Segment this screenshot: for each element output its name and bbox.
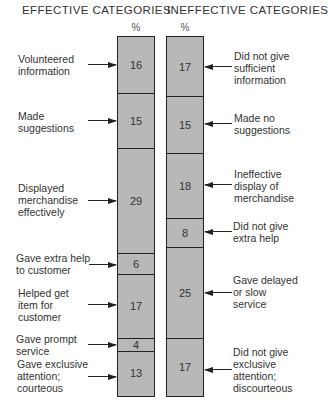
arrow-left-icon [205, 292, 232, 293]
bar-segment: 15 [167, 96, 203, 154]
right-label: Made nosuggestions [234, 112, 290, 136]
bar-segment: 6 [118, 253, 154, 275]
percent-unit-left: % [117, 22, 155, 33]
arrow-right-icon [89, 264, 116, 265]
arrow-right-icon [88, 344, 116, 345]
arrow-left-icon [205, 123, 232, 124]
left-label: Gave extra helpto customer [16, 252, 90, 276]
arrow-left-icon [205, 184, 232, 185]
bar-segment: 29 [118, 148, 154, 254]
bar-segment: 8 [167, 218, 203, 248]
bar-segment: 4 [118, 338, 154, 352]
right-label: Did not givesufficientinformation [234, 50, 289, 86]
left-label: Volunteeredinformation [18, 53, 74, 77]
left-label: Madesuggestions [18, 110, 74, 134]
arrow-right-icon [88, 200, 116, 201]
right-label: Did not giveexclusiveattention;discourte… [233, 346, 293, 394]
bar-segment: 17 [118, 274, 154, 339]
arrow-right-icon [88, 64, 116, 65]
arrow-left-icon [205, 66, 232, 67]
arrow-left-icon [205, 369, 232, 370]
left-label: Gave promptservice [16, 333, 77, 357]
arrow-left-icon [205, 231, 232, 232]
left-label: Displayedmerchandiseeffectively [18, 182, 78, 218]
percent-unit-right: % [166, 22, 204, 33]
bar-segment: 17 [167, 338, 203, 395]
left-label: Helped getitem forcustomer [18, 287, 69, 323]
bar-segment: 25 [167, 247, 203, 339]
right-label: Ineffectivedisplay ofmerchandise [234, 168, 294, 204]
arrow-right-icon [88, 304, 116, 305]
bar-segment: 16 [118, 37, 154, 94]
ineffective-bar: 17 15 18 8 25 17 [166, 36, 204, 397]
heading-effective: EFFECTIVE CATEGORIES [22, 4, 171, 16]
bar-segment: 13 [118, 351, 154, 395]
arrow-right-icon [88, 120, 116, 121]
heading-ineffective: INEFFECTIVE CATEGORIES [167, 4, 328, 16]
right-label: Did not giveextra help [233, 220, 288, 244]
right-label: Gave delayedor slowservice [233, 274, 298, 310]
effective-bar: 16 15 29 6 17 4 13 [117, 36, 155, 397]
bar-segment: 17 [167, 37, 203, 97]
arrow-right-icon [88, 376, 116, 377]
bar-segment: 15 [118, 93, 154, 149]
bar-segment: 18 [167, 153, 203, 219]
left-label: Gave exclusiveattention;courteous [17, 358, 88, 394]
